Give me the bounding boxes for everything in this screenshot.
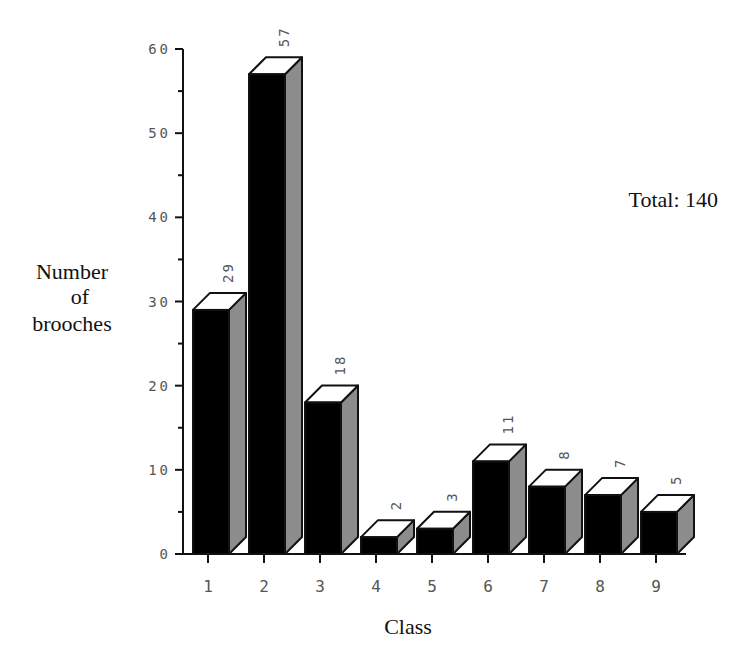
x-tick-label: 6: [483, 577, 493, 596]
total-annotation: Total: 140: [628, 187, 718, 212]
bars: [193, 57, 694, 554]
bar: [473, 444, 526, 554]
x-tick-label: 3: [315, 577, 325, 596]
bar-chart: 0102030405060 123456789 2957182311875 Nu…: [0, 0, 738, 659]
x-tick-label: 1: [203, 577, 213, 596]
bar: [193, 293, 246, 554]
bar: [305, 386, 358, 555]
bar-value-label: 8: [556, 449, 572, 459]
bar-value-label: 11: [500, 414, 516, 435]
bar: [585, 478, 638, 554]
x-tick-label: 4: [371, 577, 381, 596]
bar: [417, 512, 470, 554]
bar-value-label: 18: [332, 355, 348, 376]
bar-value-label: 5: [668, 474, 684, 484]
x-axis-label: Class: [384, 614, 432, 639]
x-tick-label: 8: [595, 577, 605, 596]
x-axis: 123456789: [183, 554, 686, 596]
x-tick-label: 7: [539, 577, 549, 596]
x-tick-label: 9: [651, 577, 661, 596]
bar-value-label: 3: [444, 491, 460, 501]
y-tick-label: 60: [148, 41, 171, 57]
y-tick-label: 40: [148, 209, 171, 225]
bar: [641, 495, 694, 554]
bar: [529, 470, 582, 554]
y-axis: 0102030405060: [148, 41, 183, 562]
bar-value-label: 57: [276, 26, 292, 47]
bar-value-label: 2: [388, 500, 404, 510]
y-tick-label: 50: [148, 125, 171, 141]
bar-value-label: 29: [220, 262, 236, 283]
y-axis-label: Numberofbrooches: [32, 259, 111, 336]
bar: [249, 57, 302, 554]
bar-value-label: 7: [612, 458, 628, 468]
y-tick-label: 10: [148, 462, 171, 478]
y-tick-label: 20: [148, 378, 171, 394]
bar: [361, 520, 414, 554]
x-tick-label: 2: [259, 577, 269, 596]
x-tick-label: 5: [427, 577, 437, 596]
y-tick-label: 0: [160, 546, 171, 562]
y-tick-label: 30: [148, 294, 171, 310]
